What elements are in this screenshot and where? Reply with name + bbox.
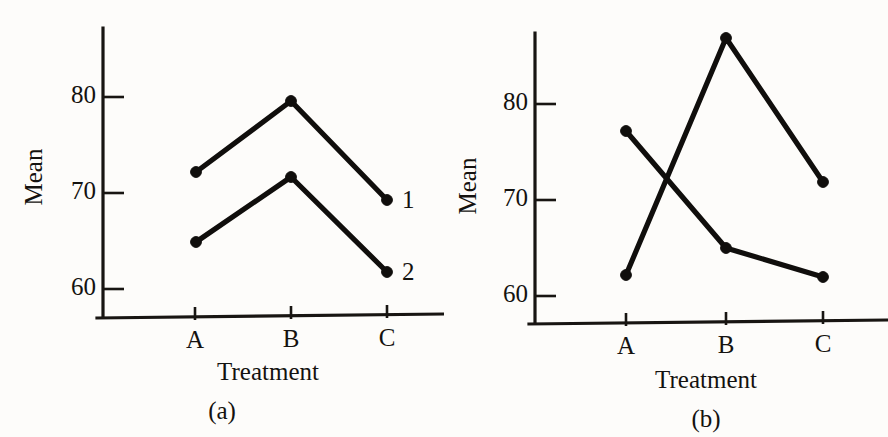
y-tick-label-60-b: 60 [503,280,528,307]
data-point-series2-a-a [191,237,202,248]
x-tick-label-a-cat-b: A [617,332,635,359]
data-point-series1-c-b [818,272,829,283]
x-tick-label-a-cat-a: A [186,326,204,353]
data-point-series1-a-a [191,167,202,178]
series-line-1-a [196,101,387,200]
x-axis-line-b [529,320,888,324]
data-point-series2-b-a [286,172,297,183]
x-tick-label-b-cat-b: B [718,331,735,358]
panel-b-plot: 80 70 60 A B C Mean Treatment [444,0,888,437]
series-label-2-a: 2 [402,258,415,285]
y-tick-label-80-a: 80 [71,81,96,108]
data-point-series2-a-b [621,270,632,281]
y-axis-title-a: Mean [20,148,47,205]
data-point-series1-a-b [621,126,632,137]
x-axis-title-a: Treatment [217,358,319,385]
figure-two-panel-interaction-plots: 80 70 60 A B C Mean Treatment [0,0,888,437]
y-axis-title-b: Mean [454,157,481,214]
data-point-series1-b-a [286,96,297,107]
series-label-1-a: 1 [402,186,415,213]
panel-caption-a: (a) [208,397,236,425]
x-tick-label-c-cat-a: C [379,324,396,351]
y-tick-label-80-b: 80 [503,88,528,115]
y-tick-label-70-a: 70 [71,177,96,204]
data-point-series2-b-b [721,33,732,44]
x-tick-label-b-cat-a: B [283,325,300,352]
data-point-series2-c-a [382,267,393,278]
panel-a-plot: 80 70 60 A B C Mean Treatment [0,0,444,437]
panel-a: 80 70 60 A B C Mean Treatment [0,0,444,437]
panel-caption-b: (b) [691,405,720,433]
y-tick-label-60-a: 60 [71,273,96,300]
panel-b: 80 70 60 A B C Mean Treatment [444,0,888,437]
x-tick-label-c-cat-b: C [815,330,832,357]
series-line-2-b [626,38,823,275]
data-point-series2-c-b [818,177,829,188]
data-point-series1-c-a [382,195,393,206]
x-axis-line-a [97,314,444,318]
y-tick-label-70-b: 70 [503,184,528,211]
data-point-series1-b-b [721,243,732,254]
series-line-2-a [196,177,387,272]
x-axis-title-b: Treatment [655,366,757,393]
